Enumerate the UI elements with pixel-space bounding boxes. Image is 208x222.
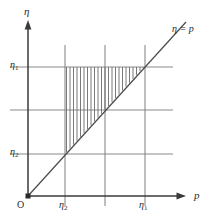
y-axis-label: η: [24, 6, 29, 17]
y-tick-eta1-subscript: 1: [15, 64, 19, 72]
horizontal-gridlines: [10, 67, 173, 154]
y-tick-label-eta1: η1: [10, 60, 18, 72]
eta-p-figure: η p O η = p η1 η2 η2 η1: [0, 0, 208, 222]
y-tick-eta2-subscript: 2: [15, 151, 19, 159]
origin-dot: [26, 194, 31, 199]
x-tick-eta2-subscript: 2: [64, 204, 68, 212]
y-axis-arrowhead: [25, 20, 32, 30]
x-tick-label-eta2: η2: [59, 200, 67, 212]
x-tick-eta1-subscript: 1: [144, 204, 148, 212]
x-tick-label-eta1: η1: [139, 200, 147, 212]
x-axis-label: p: [194, 190, 200, 201]
x-axis-arrowhead: [177, 193, 187, 200]
diagonal-line-eta-equals-p: [28, 22, 186, 196]
origin-label: O: [17, 200, 24, 210]
y-tick-label-eta2: η2: [10, 147, 18, 159]
diagonal-line-annotation: η = p: [172, 24, 194, 34]
